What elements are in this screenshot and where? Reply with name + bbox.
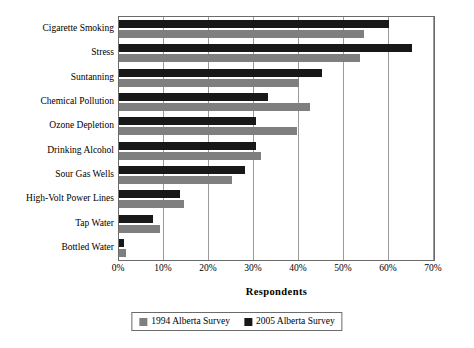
value-axis-labels: 0%10%20%30%40%50%60%70% xyxy=(118,263,435,277)
bar-1994 xyxy=(119,249,126,257)
bar-chart: Cigarette SmokingStressSuntanningChemica… xyxy=(0,0,474,348)
bar-group xyxy=(119,17,434,41)
x-tick-label: 40% xyxy=(289,263,306,274)
bar-1994 xyxy=(119,200,184,208)
bar-2005 xyxy=(119,20,389,28)
bar-2005 xyxy=(119,93,268,101)
x-tick-label: 50% xyxy=(334,263,351,274)
bar-2005 xyxy=(119,239,124,247)
category-label: Chemical Pollution xyxy=(40,96,114,106)
bar-1994 xyxy=(119,127,297,135)
category-axis-labels: Cigarette SmokingStressSuntanningChemica… xyxy=(0,16,114,261)
bar-1994 xyxy=(119,176,232,184)
bar-group xyxy=(119,66,434,90)
x-tick-label: 10% xyxy=(154,263,171,274)
plot-area xyxy=(118,16,435,261)
category-label: Suntanning xyxy=(71,72,114,82)
category-label: Drinking Alcohol xyxy=(47,145,114,155)
bar-1994 xyxy=(119,79,299,87)
bar-group xyxy=(119,114,434,138)
bar-group xyxy=(119,163,434,187)
category-label: Stress xyxy=(91,47,114,57)
bar-2005 xyxy=(119,215,153,223)
category-label: Tap Water xyxy=(75,218,114,228)
category-label: Ozone Depletion xyxy=(49,120,114,130)
bar-2005 xyxy=(119,69,322,77)
bar-2005 xyxy=(119,44,412,52)
bar-group xyxy=(119,236,434,260)
legend-item-2005: 2005 Alberta Survey xyxy=(244,316,335,327)
legend-swatch-icon-1994 xyxy=(139,318,147,326)
category-label: Bottled Water xyxy=(61,242,114,252)
bar-group xyxy=(119,139,434,163)
legend-label-2005: 2005 Alberta Survey xyxy=(256,316,335,327)
x-tick-label: 60% xyxy=(379,263,396,274)
x-axis-title: Respondents xyxy=(118,286,435,297)
category-label: Cigarette Smoking xyxy=(42,23,114,33)
category-label: High-Volt Power Lines xyxy=(26,193,114,203)
category-label: Sour Gas Wells xyxy=(55,169,114,179)
bar-2005 xyxy=(119,166,245,174)
legend-item-1994: 1994 Alberta Survey xyxy=(139,316,230,327)
bar-1994 xyxy=(119,152,261,160)
bar-2005 xyxy=(119,190,180,198)
bar-2005 xyxy=(119,117,256,125)
bar-2005 xyxy=(119,142,256,150)
legend-label-1994: 1994 Alberta Survey xyxy=(151,316,230,327)
legend-swatch-icon-2005 xyxy=(244,318,252,326)
x-tick-label: 20% xyxy=(199,263,216,274)
bar-1994 xyxy=(119,225,160,233)
bar-1994 xyxy=(119,54,360,62)
bar-group xyxy=(119,41,434,65)
bar-1994 xyxy=(119,30,364,38)
bar-group xyxy=(119,90,434,114)
chart-legend: 1994 Alberta Survey 2005 Alberta Survey xyxy=(131,312,342,331)
bar-group xyxy=(119,187,434,211)
x-tick-label: 0% xyxy=(112,263,125,274)
bar-1994 xyxy=(119,103,310,111)
x-tick-label: 30% xyxy=(244,263,261,274)
x-tick-label: 70% xyxy=(424,263,441,274)
bar-group xyxy=(119,211,434,235)
